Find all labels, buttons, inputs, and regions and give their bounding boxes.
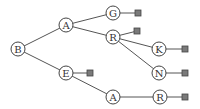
node-label: A (108, 92, 117, 103)
edge-r-n (113, 37, 159, 73)
terminals (87, 10, 188, 100)
node-r2: R (153, 90, 167, 104)
node-g: G (106, 6, 120, 20)
edge-e-a (66, 73, 113, 97)
node-a2: A (106, 90, 120, 104)
node-b: B (11, 42, 25, 56)
node-label: B (14, 44, 21, 55)
terminal-marker-icon (134, 28, 140, 34)
node-a: A (59, 18, 73, 32)
node-e: E (59, 66, 73, 80)
nodes: B A E G R K N A (11, 6, 167, 104)
terminal-marker-icon (135, 10, 141, 16)
terminal-marker-icon (182, 70, 188, 76)
node-label: G (109, 8, 117, 19)
node-label: K (155, 44, 163, 55)
node-n: N (152, 66, 166, 80)
node-r: R (106, 30, 120, 44)
node-label: A (61, 20, 70, 31)
edge-b-a (18, 25, 66, 49)
terminal-marker-icon (182, 46, 188, 52)
node-label: N (155, 68, 164, 79)
edge-b-e (18, 49, 66, 73)
node-k: K (152, 42, 166, 56)
node-label: R (109, 32, 117, 43)
terminal-marker-icon (182, 94, 188, 100)
node-label: E (62, 68, 69, 79)
trie-diagram: B A E G R K N A (0, 0, 200, 109)
terminal-marker-icon (87, 70, 93, 76)
node-label: R (156, 92, 164, 103)
